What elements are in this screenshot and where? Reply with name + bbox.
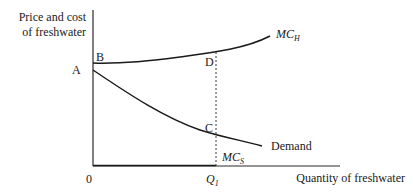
freshwater-diagram: Price and cost of freshwater Quantity of… [0, 0, 413, 192]
mc-s-label: MCS [221, 150, 244, 166]
demand-curve [93, 70, 262, 146]
q1-label: Q1 [206, 172, 219, 188]
point-a-label: A [72, 63, 81, 77]
point-d-label: D [205, 55, 214, 69]
mc-h-label: MCH [275, 27, 301, 43]
origin-label: 0 [86, 172, 92, 186]
y-axis-label-line2: of freshwater [22, 25, 86, 39]
point-c-label: C [205, 121, 213, 135]
demand-label: Demand [271, 139, 312, 153]
y-axis-label-line1: Price and cost [19, 10, 87, 24]
x-axis-label: Quantity of freshwater [296, 171, 405, 185]
mc-h-curve [93, 36, 270, 63]
point-b-label: B [96, 50, 104, 64]
